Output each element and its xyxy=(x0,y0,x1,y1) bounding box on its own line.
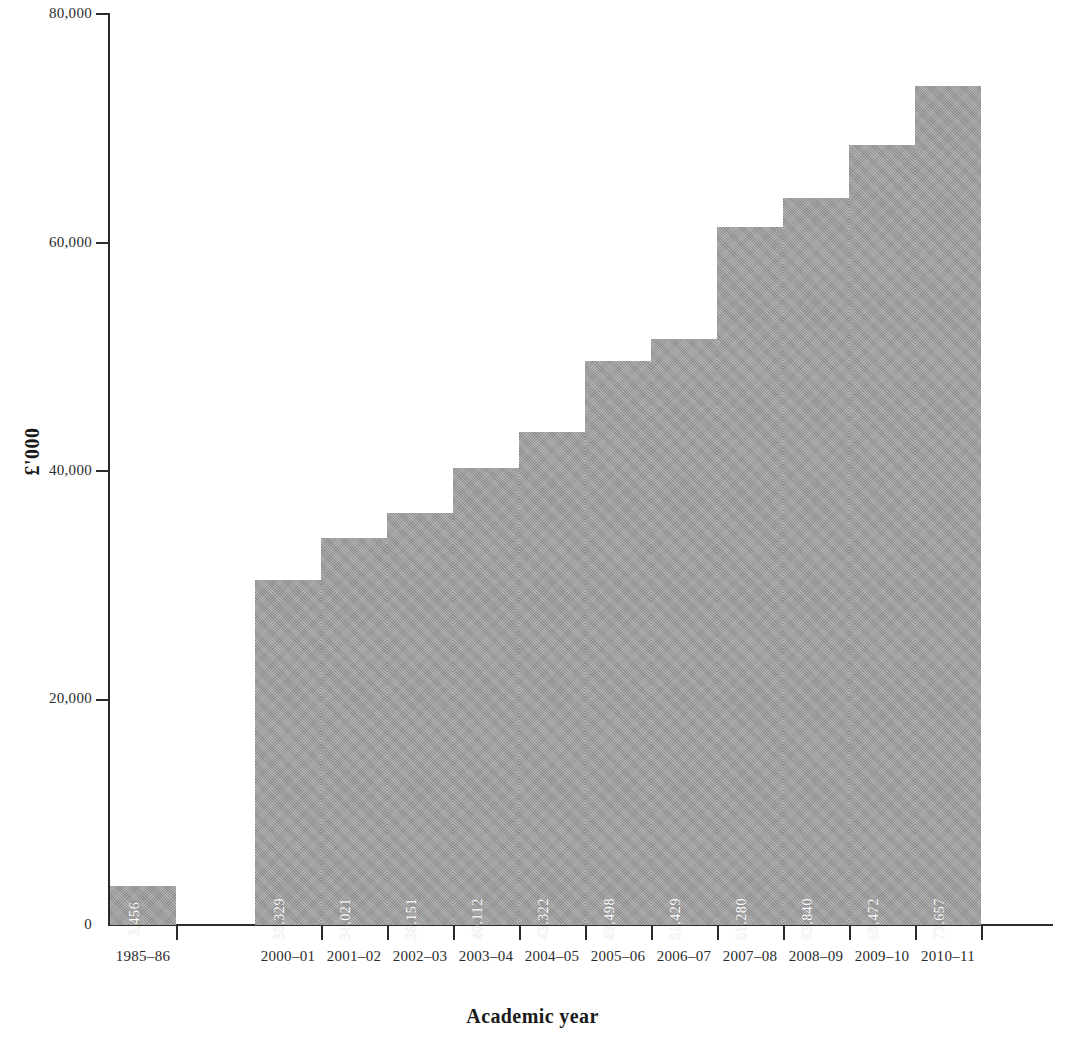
x-tick-mark xyxy=(849,926,851,940)
bar-2010–11: 73,657 xyxy=(915,86,981,925)
x-category-label-2002–03: 2002–03 xyxy=(393,948,448,965)
bar-2006–07: 51,429 xyxy=(651,339,717,925)
x-category-label-2008–09: 2008–09 xyxy=(789,948,844,965)
x-tick-mark xyxy=(585,926,587,940)
x-category-label-2005–06: 2005–06 xyxy=(591,948,646,965)
bar-value-label: 68,472 xyxy=(866,898,882,940)
plot-area: 3,45630,32934,02136,15140,11243,32249,49… xyxy=(110,14,1052,925)
bar-value-label: 73,657 xyxy=(932,898,948,940)
bar-2004–05: 43,322 xyxy=(519,432,585,925)
bar-value-label: 3,456 xyxy=(127,902,143,937)
x-category-label-2003–04: 2003–04 xyxy=(459,948,514,965)
x-category-label-2006–07: 2006–07 xyxy=(657,948,712,965)
x-tick-mark xyxy=(783,926,785,940)
x-category-label-2004–05: 2004–05 xyxy=(525,948,580,965)
x-tick-mark xyxy=(651,926,653,940)
y-tick-label-0: 0 xyxy=(0,916,92,933)
y-tick-label-80000: 80,000 xyxy=(0,5,92,22)
bar-2002–03: 36,151 xyxy=(387,513,453,925)
bar-2001–02: 34,021 xyxy=(321,538,387,925)
x-tick-mark xyxy=(915,926,917,940)
bar-2008–09: 63,840 xyxy=(783,198,849,925)
x-axis-title: Academic year xyxy=(0,1005,1065,1028)
x-tick-mark xyxy=(717,926,719,940)
x-tick-mark xyxy=(453,926,455,940)
y-tick-label-40000: 40,000 xyxy=(0,462,92,479)
x-category-label-2001–02: 2001–02 xyxy=(327,948,382,965)
bar-2003–04: 40,112 xyxy=(453,468,519,925)
y-axis-title: £'000 xyxy=(21,412,44,492)
bar-value-label: 63,840 xyxy=(800,898,816,940)
x-category-label-2007–08: 2007–08 xyxy=(723,948,778,965)
bar-value-label: 49,498 xyxy=(602,898,618,940)
x-category-label-1985–86: 1985–86 xyxy=(116,948,171,965)
y-tick-label-20000: 20,000 xyxy=(0,690,92,707)
y-tick-label-60000: 60,000 xyxy=(0,234,92,251)
bar-value-label: 40,112 xyxy=(470,898,486,940)
bar-value-label: 34,021 xyxy=(338,898,354,940)
bar-value-label: 30,329 xyxy=(272,898,288,940)
x-category-label-2010–11: 2010–11 xyxy=(921,948,975,965)
x-tick-mark xyxy=(321,926,323,940)
x-category-label-2009–10: 2009–10 xyxy=(855,948,910,965)
x-tick-mark xyxy=(519,926,521,940)
bar-1985–86: 3,456 xyxy=(110,886,176,925)
bar-value-label: 51,429 xyxy=(668,898,684,940)
x-tick-mark xyxy=(176,926,178,940)
bar-value-label: 36,151 xyxy=(404,898,420,940)
bar-2007–08: 61,280 xyxy=(717,227,783,925)
x-tick-mark xyxy=(981,926,983,940)
bar-chart-figure: £'000 80,000 60,000 40,000 20,000 0 3,45… xyxy=(0,0,1065,1037)
x-category-label-2000–01: 2000–01 xyxy=(261,948,316,965)
bar-2000–01: 30,329 xyxy=(255,580,321,925)
bar-2005–06: 49,498 xyxy=(585,361,651,925)
x-tick-mark xyxy=(387,926,389,940)
bar-2009–10: 68,472 xyxy=(849,145,915,925)
bar-value-label: 61,280 xyxy=(734,898,750,940)
bar-value-label: 43,322 xyxy=(536,898,552,940)
